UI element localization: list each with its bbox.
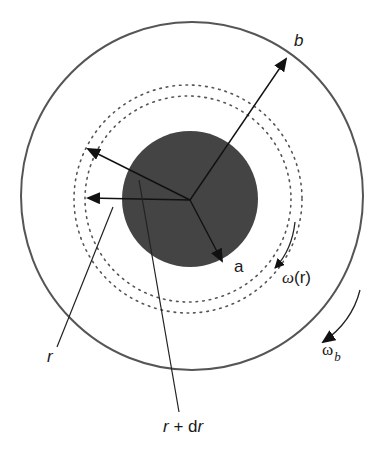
label-b: b <box>294 31 303 50</box>
label-omega-b: ωb <box>322 340 341 364</box>
r-plus-dr-plus-d: + d <box>169 417 198 436</box>
omega-b-symbol: ω <box>322 340 333 359</box>
label-r: r <box>47 347 54 366</box>
omega-b-rotation-arrow <box>323 290 360 342</box>
diagram-canvas: b a ω(r) ωb r r + dr <box>0 0 375 467</box>
r-plus-dr-r2: r <box>198 417 205 436</box>
label-omega-r: ω(r) <box>282 268 311 287</box>
omega-r-argument: (r) <box>294 268 311 287</box>
label-a: a <box>234 257 244 276</box>
concentric-cylinder-diagram: b a ω(r) ωb r r + dr <box>0 0 375 467</box>
omega-b-subscript: b <box>334 349 341 364</box>
label-r-plus-dr: r + dr <box>163 417 205 436</box>
omega-r-symbol: ω <box>282 268 294 287</box>
